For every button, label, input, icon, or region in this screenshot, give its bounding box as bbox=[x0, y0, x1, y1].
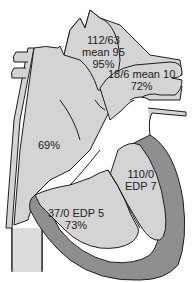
pa-saturation: 72% bbox=[108, 80, 175, 92]
pa-pressure: 18/6 mean 10 bbox=[108, 68, 175, 80]
pulmonary-vein-stub-1 bbox=[13, 52, 28, 62]
lv-pressure: 110/0 bbox=[125, 168, 157, 180]
ra-saturation: 69% bbox=[38, 139, 60, 151]
right-ventricle-label: 37/0 EDP 5 73% bbox=[48, 207, 104, 231]
rv-pressure: 37/0 EDP 5 bbox=[48, 207, 104, 219]
rv-saturation: 73% bbox=[48, 219, 104, 231]
pulmonary-artery-label: 18/6 mean 10 72% bbox=[108, 68, 175, 92]
lv-edp: EDP 7 bbox=[125, 180, 157, 192]
left-pulmonary-vein bbox=[148, 108, 186, 135]
heart-diagram: 112/63 mean 95 95% 18/6 mean 10 72% 69% … bbox=[0, 0, 192, 282]
right-atrium-label: 69% bbox=[38, 139, 60, 151]
aorta-mean: mean 95 bbox=[82, 46, 125, 58]
aorta-pressure: 112/63 bbox=[82, 34, 125, 46]
pulmonary-vein-stub-2 bbox=[11, 68, 26, 78]
ivc-fill bbox=[12, 228, 42, 272]
left-ventricle-label: 110/0 EDP 7 bbox=[125, 168, 157, 192]
aorta-label: 112/63 mean 95 95% bbox=[82, 34, 125, 70]
